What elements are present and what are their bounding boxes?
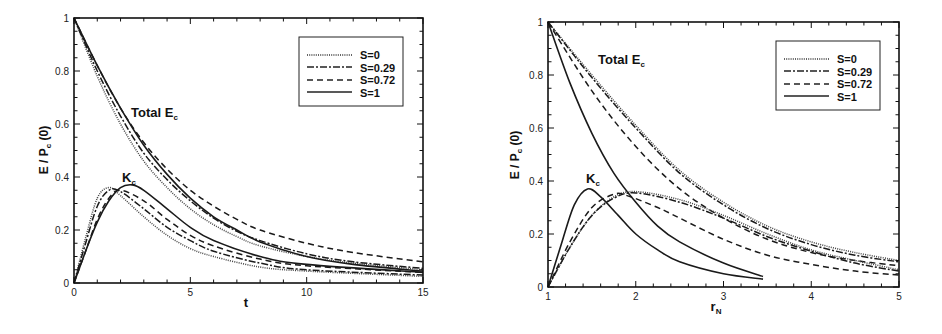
legend-label-s0: S=0 bbox=[360, 49, 380, 61]
y-tick-label: 0.4 bbox=[529, 176, 543, 187]
legend-label-s072: S=0.72 bbox=[360, 74, 395, 86]
annotation-total-ec: Total Ec bbox=[131, 105, 178, 122]
x-tick-label: 5 bbox=[896, 291, 902, 302]
legend-right: S=0 S=0.29 S=0.72 S=1 bbox=[776, 41, 880, 110]
legend-label-s029: S=0.29 bbox=[837, 66, 872, 78]
y-tick-label: 0.4 bbox=[55, 172, 69, 183]
x-tick-label: 5 bbox=[188, 287, 194, 298]
y-tick-label: 0.2 bbox=[55, 225, 69, 236]
chart-energy-vs-rn: 1234500.20.40.60.81 Total Ec Kc rN E / P… bbox=[471, 0, 942, 334]
y-axis-label: E / Pc (0) bbox=[508, 131, 524, 179]
y-tick-label: 0 bbox=[537, 282, 543, 293]
y-tick-label: 1 bbox=[63, 13, 69, 24]
legend-label-s1: S=1 bbox=[837, 91, 857, 103]
x-axis-label: t bbox=[244, 295, 249, 310]
x-tick-label: 4 bbox=[808, 291, 814, 302]
legend-label-s0: S=0 bbox=[837, 53, 857, 65]
y-tick-label: 0.2 bbox=[529, 229, 543, 240]
x-tick-label: 3 bbox=[721, 291, 727, 302]
legend-label-s1: S=1 bbox=[360, 87, 380, 99]
y-tick-label: 0.6 bbox=[529, 123, 543, 134]
y-axis-label: E / Pc (0) bbox=[37, 126, 53, 174]
x-tick-label: 1 bbox=[545, 291, 551, 302]
legend-left: S=0 S=0.29 S=0.72 S=1 bbox=[299, 37, 403, 106]
x-tick-label: 2 bbox=[633, 291, 639, 302]
y-tick-label: 0.6 bbox=[55, 119, 69, 130]
chart-energy-vs-time: 05101500.20.40.60.81 Total Ec Kc t E / P… bbox=[0, 0, 471, 334]
plot-area-left: 05101500.20.40.60.81 Total Ec Kc t E / P… bbox=[0, 0, 471, 334]
y-tick-label: 0 bbox=[63, 278, 69, 289]
x-tick-label: 15 bbox=[417, 287, 429, 298]
y-tick-label: 0.8 bbox=[55, 66, 69, 77]
annotation-total-ec: Total Ec bbox=[598, 52, 645, 69]
plot-area-right: 1234500.20.40.60.81 Total Ec Kc rN E / P… bbox=[471, 0, 942, 334]
legend-label-s072: S=0.72 bbox=[837, 78, 872, 90]
x-tick-label: 10 bbox=[301, 287, 313, 298]
y-tick-label: 1 bbox=[537, 17, 543, 28]
legend-label-s029: S=0.29 bbox=[360, 62, 395, 74]
x-tick-label: 0 bbox=[71, 287, 77, 298]
y-tick-label: 0.8 bbox=[529, 70, 543, 81]
